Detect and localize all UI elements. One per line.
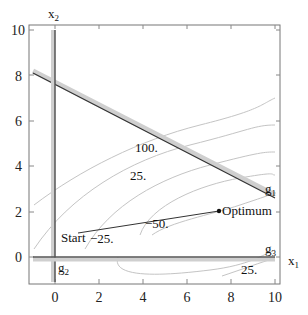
y-tick-8: 8 [15,69,22,84]
constraint-g1 [33,73,275,198]
contour-label-m50: −50. [145,216,169,231]
y-axis-label: x2 [48,6,59,23]
x-ticks [55,25,275,284]
x-tick-2: 2 [96,290,103,305]
contour-label-100: 100. [135,140,158,155]
x-tick-6: 6 [184,290,191,305]
contour-label-25: 25. [130,168,146,183]
g2-label: g2 [58,260,69,277]
x-tick-4: 4 [140,290,147,305]
g3-label: g3 [265,241,277,258]
y-tick-10: 10 [11,23,25,38]
optimum-label: Optimum [222,203,272,218]
x-axis-label: x1 [288,253,299,270]
contour-lines [34,98,275,276]
y-tick-6: 6 [15,114,22,129]
start-label: Start [61,230,86,245]
x-tick-8: 8 [228,290,235,305]
contour-label-m25: −25. [90,231,114,246]
y-tick-4: 4 [15,159,22,174]
contour-plot: 0 2 4 6 8 10 0 2 4 6 8 10 x2 x1 g1 g2 g3… [0,0,308,315]
y-tick-2: 2 [15,205,22,220]
y-tick-0: 0 [15,250,22,265]
x-tick-0: 0 [52,290,59,305]
x-tick-10: 10 [268,290,282,305]
g1-shading [33,71,275,195]
contour-label-25-lower: 25. [241,262,257,277]
g1-label: g1 [265,181,276,198]
optimum-point [217,209,221,213]
